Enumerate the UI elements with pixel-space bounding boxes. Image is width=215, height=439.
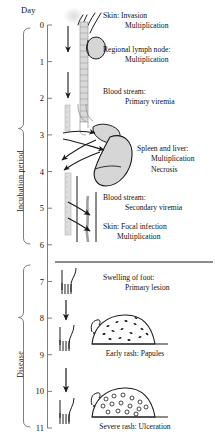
event-swelling-of-foot-line2: Primary lesion [103, 283, 170, 293]
event-spleen-liver-line2: Multiplication [137, 154, 194, 164]
bracket-label-incubation-period: Incubation period [16, 150, 25, 212]
event-skin-focal: Skin: Focal infection Multiplication [103, 222, 167, 243]
event-blood-primary-line2: Primary viremia [103, 97, 175, 107]
blood-stream-primary [65, 104, 93, 131]
event-skin-invasion: Skin: Invasion Multiplication [103, 11, 168, 32]
tick-label-5: 5 [30, 203, 44, 213]
caption-early-rash-line1: Early rash: [106, 349, 139, 358]
event-regional-lymph-node-line1: Regional lymph node: [103, 45, 171, 54]
blood-stream-secondary [65, 173, 96, 242]
event-skin-invasion-line2: Multiplication [103, 21, 168, 31]
event-skin-focal-line2: Multiplication [103, 232, 167, 242]
tick-label-8: 8 [30, 313, 44, 323]
early-rash-mouse-shape [91, 315, 168, 344]
lymphatic-vessel [80, 22, 88, 135]
caption-early-rash: Early rash: Papules [92, 349, 178, 359]
event-swelling-of-foot-line1: Swelling of foot: [103, 273, 154, 282]
event-blood-secondary-line2: Secondary viremia [103, 203, 182, 213]
event-regional-lymph-node-line2: Multiplication [103, 55, 171, 65]
liver-shape [94, 136, 132, 186]
tick-label-2: 2 [30, 93, 44, 103]
tick-label-7: 7 [30, 277, 44, 287]
disease-bracket [19, 265, 31, 427]
tick-label-11: 11 [27, 423, 44, 433]
caption-early-rash-line2: Papules [141, 349, 165, 358]
event-spleen-liver: Spleen and liver: Multiplication Necrosi… [137, 144, 194, 175]
caption-severe-rash-line2: Ulceration [139, 422, 171, 431]
early-rash-limb-shape [60, 325, 74, 351]
severe-rash-mouse-shape [91, 388, 168, 417]
event-swelling-of-foot: Swelling of foot: Primary lesion [103, 273, 170, 294]
caption-severe-rash: Severe rash: Ulceration [92, 422, 178, 432]
tick-label-1: 1 [30, 57, 44, 67]
tick-label-3: 3 [30, 130, 44, 140]
event-blood-secondary-line1: Blood stream: [103, 193, 146, 202]
tick-label-9: 9 [30, 350, 44, 360]
figure-canvas: Day 0 1 2 3 4 5 6 7 8 9 10 11 Incubation… [0, 0, 215, 439]
day-axis [48, 25, 53, 428]
foot-swelling-shape [62, 268, 76, 294]
bracket-label-disease: Disease [16, 351, 25, 378]
tick-label-10: 10 [27, 386, 44, 396]
event-spleen-liver-line1: Spleen and liver: [137, 144, 188, 153]
event-blood-secondary: Blood stream: Secondary viremia [103, 193, 182, 214]
tick-label-4: 4 [30, 167, 44, 177]
tick-label-6: 6 [30, 240, 44, 250]
tick-label-0: 0 [30, 20, 44, 30]
event-skin-focal-line1: Skin: Focal infection [103, 222, 167, 231]
axis-title: Day [21, 5, 36, 15]
event-blood-primary-line1: Blood stream: [103, 87, 146, 96]
event-skin-invasion-line1: Skin: Invasion [103, 11, 147, 20]
event-spleen-liver-line3: Necrosis [137, 165, 194, 175]
severe-rash-limb-shape [60, 398, 74, 424]
event-blood-primary: Blood stream: Primary viremia [103, 87, 175, 108]
event-regional-lymph-node: Regional lymph node: Multiplication [103, 45, 171, 66]
caption-severe-rash-line1: Severe rash: [99, 422, 136, 431]
